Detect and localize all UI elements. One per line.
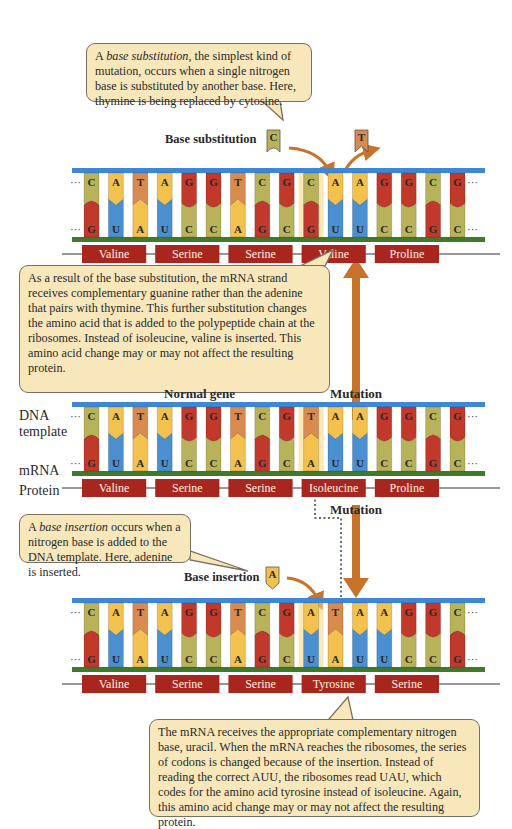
amino-acid-valine: Valine <box>82 479 146 497</box>
base-letter: C <box>307 176 315 188</box>
base-letter: U <box>161 653 169 665</box>
amino-acid-serine: Serine <box>375 675 439 693</box>
ellipsis: ··· <box>70 606 81 618</box>
amino-acid-label: Proline <box>390 481 425 495</box>
base-pair: GC <box>255 173 270 237</box>
base-letter: U <box>112 457 120 469</box>
base-letter: A <box>136 457 144 469</box>
base-letter: A <box>356 606 364 618</box>
callout-tail <box>328 697 353 720</box>
base-letter: T <box>137 176 145 188</box>
amino-acid-serine: Serine <box>228 479 292 497</box>
base-letter: A <box>332 410 340 422</box>
base-letter: G <box>429 223 438 235</box>
base-letter: U <box>112 653 120 665</box>
base-letter: A <box>307 606 315 618</box>
base-letter: A <box>234 653 242 665</box>
floating-base-substitution-out: T <box>355 130 368 152</box>
base-letter: U <box>332 457 340 469</box>
base-letter: A <box>161 410 169 422</box>
base-pair: GC <box>255 603 270 667</box>
base-letter: C <box>283 457 291 469</box>
base-letter: U <box>332 223 340 235</box>
base-pair: UA <box>157 407 172 471</box>
base-letter: G <box>258 457 267 469</box>
base-letter: A <box>112 410 120 422</box>
base-pair: UA <box>157 603 172 667</box>
base-letter: G <box>307 223 316 235</box>
dna-backbone <box>72 168 485 173</box>
base-pair: AT <box>133 173 148 237</box>
base-insertion-label: Base insertion <box>184 570 259 585</box>
mutation-label-top: Mutation <box>330 386 382 402</box>
dna-backbone <box>72 598 485 603</box>
amino-acid-label: Valine <box>99 247 130 261</box>
base-pair: CG <box>401 407 416 471</box>
base-pair: CG <box>401 603 416 667</box>
base-letter: G <box>429 606 438 618</box>
amino-acid-valine: Valine <box>82 245 146 263</box>
base-letter: U <box>356 223 364 235</box>
amino-acid-label: Serine <box>392 677 423 691</box>
base-pair: GC <box>450 603 465 667</box>
base-pair: GC <box>255 407 270 471</box>
ellipsis: ··· <box>467 606 478 618</box>
base-pair: CG <box>377 173 392 237</box>
mutation-label-bottom: Mutation <box>330 502 382 518</box>
floating-base-insertion: A <box>266 567 279 589</box>
base-pair: GC <box>84 407 99 471</box>
base-letter: C <box>185 457 193 469</box>
base-letter: C <box>258 410 266 422</box>
base-pair: CG <box>182 603 197 667</box>
base-letter: T <box>234 410 242 422</box>
base-pair: CG <box>182 407 197 471</box>
base-pair: AT <box>133 407 148 471</box>
base-pair: CG <box>450 173 465 237</box>
base-letter: C <box>380 457 388 469</box>
base-letter: A <box>307 457 315 469</box>
base-letter: G <box>404 606 413 618</box>
base-letter: T <box>307 410 315 422</box>
amino-acid-label: Isoleucine <box>309 481 358 495</box>
ellipsis: ··· <box>467 223 478 235</box>
base-pair: AT <box>133 603 148 667</box>
base-letter: G <box>404 176 413 188</box>
base-letter: G <box>282 176 291 188</box>
base-letter: G <box>185 176 194 188</box>
base-letter: G <box>282 410 291 422</box>
ellipsis: ··· <box>70 457 81 469</box>
base-letter: C <box>380 223 388 235</box>
base-letter: U <box>161 223 169 235</box>
base-pair: UA <box>328 173 343 237</box>
base-letter: C <box>210 223 218 235</box>
ellipsis: ··· <box>467 653 478 665</box>
base-pair: CG <box>279 603 294 667</box>
base-letter: G <box>453 410 462 422</box>
base-pair: CG <box>377 407 392 471</box>
base-letter: A <box>356 176 364 188</box>
base-pair: UA <box>108 173 123 237</box>
base-pair: CG <box>279 407 294 471</box>
mutation-diagram: GCUAATUACGCGATGCCGGCUAUACGCGGCCG········… <box>0 0 512 829</box>
normal-gene-label: Normal gene <box>164 386 235 402</box>
base-letter: A <box>356 410 364 422</box>
base-letter: T <box>358 131 366 143</box>
ellipsis: ··· <box>70 653 81 665</box>
dna-template-label: DNA template <box>19 408 71 440</box>
amino-acid-isoleucine: Isoleucine <box>302 479 366 497</box>
base-letter: G <box>209 410 218 422</box>
base-letter: G <box>185 606 194 618</box>
ellipsis: ··· <box>467 176 478 188</box>
base-letter: T <box>137 410 145 422</box>
base-letter: G <box>380 410 389 422</box>
base-letter: C <box>405 223 413 235</box>
amino-acid-tyrosine: Tyrosine <box>302 675 366 693</box>
base-letter: G <box>429 457 438 469</box>
ellipsis: ··· <box>467 410 478 422</box>
base-letter: G <box>404 410 413 422</box>
base-pair: AT <box>328 603 343 667</box>
base-letter: C <box>88 410 96 422</box>
amino-acid-label: Serine <box>172 677 203 691</box>
amino-acid-label: Serine <box>245 677 276 691</box>
base-pair: UA <box>352 407 367 471</box>
